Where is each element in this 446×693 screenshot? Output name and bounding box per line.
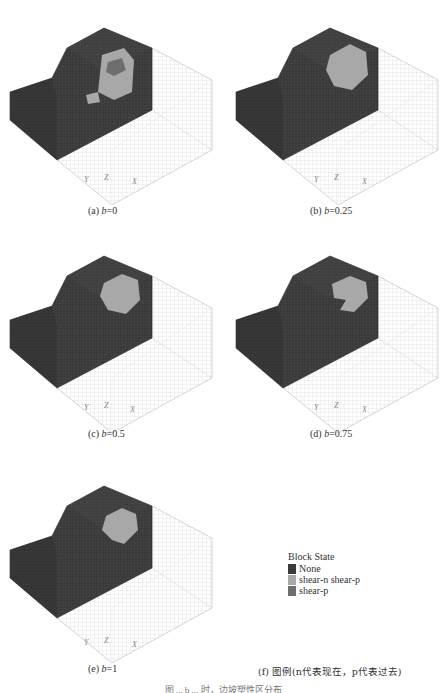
legend-item-none: None xyxy=(288,563,360,574)
panel-c: Y Z X (c) b=0.5 xyxy=(2,228,222,450)
legend-swatch-shear-p xyxy=(288,586,296,596)
panel-e: Y Z X (e) b=1 xyxy=(2,458,222,680)
caption-a: (a) b=0 xyxy=(88,205,117,216)
axis-y-label: Y xyxy=(84,638,88,647)
axis-y-label: Y xyxy=(84,175,88,184)
axis-x-label: X xyxy=(132,640,137,649)
axis-z-label: Z xyxy=(334,401,338,410)
axis-z-label: Z xyxy=(334,173,338,182)
axis-x-label: X xyxy=(130,405,135,414)
legend-item-shear-p: shear-p xyxy=(288,585,360,596)
axis-z-label: Z xyxy=(104,636,108,645)
axis-z-label: Z xyxy=(104,401,108,410)
caption-d: (d) b=0.75 xyxy=(310,428,352,439)
figure-caption: 图 ... b ... 时，边坡塑性区分布 xyxy=(0,683,446,693)
axis-y-label: Y xyxy=(314,403,318,412)
legend-item-shear-n-shear-p: shear-n shear-p xyxy=(288,574,360,585)
legend-title: Block State xyxy=(288,551,360,562)
legend-swatch-shear-n-shear-p xyxy=(288,575,296,585)
axis-z-label: Z xyxy=(104,173,108,182)
legend-swatch-none xyxy=(288,564,296,574)
caption-e: (e) b=1 xyxy=(88,663,117,674)
slope-model-e xyxy=(2,458,222,663)
axis-x-label: X xyxy=(362,177,367,186)
axis-y-label: Y xyxy=(314,175,318,184)
panel-d: Y Z X (d) b=0.75 xyxy=(228,228,446,450)
legend: Block State None shear-n shear-p shear-p xyxy=(288,551,360,596)
caption-c: (c) b=0.5 xyxy=(88,428,125,439)
panel-b: Y Z X (b) b=0.25 xyxy=(228,0,446,222)
axis-y-label: Y xyxy=(84,403,88,412)
axis-x-label: X xyxy=(132,177,137,186)
panel-a: Y Z X (a) b=0 xyxy=(2,0,222,222)
slope-model-a xyxy=(2,0,222,205)
slope-model-c xyxy=(2,228,222,433)
caption-b: (b) b=0.25 xyxy=(310,205,352,216)
axis-x-label: X xyxy=(362,405,367,414)
caption-f: (f) 图例(n代表现在，p代表过去) xyxy=(258,664,402,678)
